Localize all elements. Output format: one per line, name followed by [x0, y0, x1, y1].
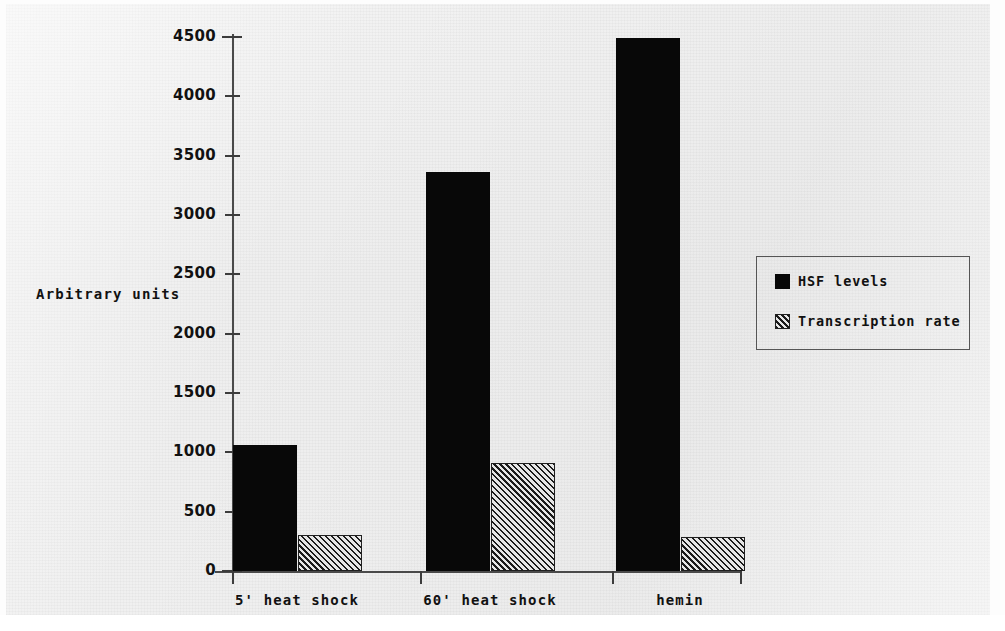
bar: [616, 38, 680, 571]
y-axis-tick: [225, 392, 240, 394]
legend-item-hsf-levels: HSF levels: [775, 273, 888, 289]
y-axis-tick-label: 2500: [130, 264, 216, 282]
bar: [298, 535, 362, 571]
legend-item-transcription-rate: Transcription rate: [775, 313, 961, 329]
x-axis-category-label: 5' heat shock: [187, 592, 407, 608]
bar-chart-plot: 050010001500200025003000350040004500 Arb…: [0, 0, 1005, 631]
y-axis-tick-label: 1000: [130, 442, 216, 460]
y-axis-tick: [225, 273, 240, 275]
x-axis-tick: [232, 571, 234, 584]
x-axis-tick: [420, 571, 422, 584]
x-axis-line: [215, 571, 742, 573]
legend-label: Transcription rate: [798, 313, 961, 329]
y-axis-tick: [225, 333, 240, 335]
bar: [491, 463, 555, 571]
bar: [233, 445, 297, 571]
legend-label: HSF levels: [798, 273, 888, 289]
y-axis-tick: [225, 155, 240, 157]
legend-swatch-solid-icon: [775, 274, 790, 289]
x-axis-category-label: 60' heat shock: [380, 592, 600, 608]
y-axis-tick-label: 3500: [130, 146, 216, 164]
y-axis-tick: [225, 95, 240, 97]
y-axis-tick-label: 2000: [130, 324, 216, 342]
x-axis-tick: [740, 571, 742, 584]
y-axis-tick-label: 0: [130, 561, 216, 579]
bar: [681, 537, 745, 571]
y-axis-tick-label: 1500: [130, 383, 216, 401]
figure: 050010001500200025003000350040004500 Arb…: [0, 0, 1005, 631]
y-axis-tick: [222, 36, 242, 38]
y-axis-tick-label: 4500: [130, 27, 216, 45]
x-axis-tick: [612, 571, 614, 584]
legend: HSF levels Transcription rate: [756, 256, 970, 350]
x-axis-category-label: hemin: [570, 592, 790, 608]
bar: [426, 172, 490, 571]
y-axis-tick-label: 500: [130, 502, 216, 520]
y-axis-title: Arbitrary units: [36, 286, 180, 302]
y-axis-tick-labels: 050010001500200025003000350040004500: [130, 0, 216, 631]
y-axis-tick-label: 3000: [130, 205, 216, 223]
legend-swatch-hatched-icon: [775, 314, 790, 329]
y-axis-tick: [225, 214, 240, 216]
y-axis-tick-label: 4000: [130, 86, 216, 104]
